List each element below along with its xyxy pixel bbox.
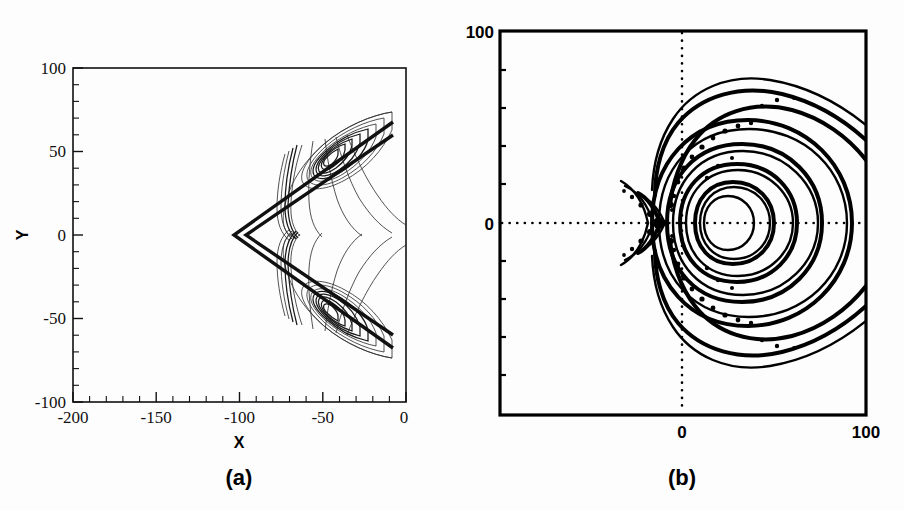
panel-a-xtick-neg150: -150 [141, 408, 172, 427]
panel-a-caption: (a) [226, 465, 253, 490]
panel-b-xtick-100: 100 [852, 423, 880, 442]
panel-a-wedge-body [234, 122, 393, 348]
panel-b-speckle [670, 96, 796, 350]
panel-b-cusp-cluster [621, 181, 674, 265]
panel-a-plot: 100 50 0 -50 -100 -200 -150 -100 -50 0 Y… [0, 0, 452, 510]
panel-a-y-tick-labels: 100 50 0 -50 -100 [35, 59, 66, 412]
panel-a-xtick-neg50: -50 [311, 408, 334, 427]
panel-a-x-tick-labels: -200 -150 -100 -50 0 [57, 408, 408, 427]
panel-a-contours [277, 112, 406, 358]
panel-b-plot: 100 0 0 100 (b) [452, 0, 904, 510]
panel-a-xtick-neg200: -200 [57, 408, 88, 427]
panel-a-frame [73, 68, 406, 402]
panel-b-ytick-100: 100 [466, 23, 494, 42]
panel-a-ytick-0: 0 [58, 226, 67, 245]
panel-a-ytick-50: 50 [49, 142, 66, 161]
panel-b-xtick-0: 0 [677, 423, 686, 442]
panel-a-ytick-neg50: -50 [43, 309, 66, 328]
panel-a-xtick-0: 0 [400, 408, 409, 427]
panel-b: 100 0 0 100 (b) [452, 0, 904, 510]
panel-b-caption: (b) [668, 465, 696, 490]
panel-a-y-axis-title: Y [14, 229, 31, 240]
panel-a-xtick-neg100: -100 [224, 408, 255, 427]
panel-a-ytick-100: 100 [41, 59, 67, 78]
figure-container: 100 50 0 -50 -100 -200 -150 -100 -50 0 Y… [0, 0, 904, 510]
panel-a-x-axis-title: X [234, 434, 245, 451]
panel-b-ytick-0: 0 [485, 215, 494, 234]
panel-a: 100 50 0 -50 -100 -200 -150 -100 -50 0 Y… [0, 0, 452, 510]
